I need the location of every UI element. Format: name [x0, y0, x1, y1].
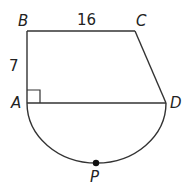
geometry-diagram: B C A D P 16 7 [0, 0, 186, 188]
measure-BC: 16 [77, 11, 96, 29]
measure-AB: 7 [9, 57, 19, 75]
right-angle-marker [27, 90, 40, 103]
label-B: B [18, 12, 28, 30]
label-C: C [136, 12, 147, 30]
segment-CD [135, 31, 166, 103]
label-P: P [90, 168, 100, 186]
label-A: A [10, 94, 21, 112]
semicircle-arc [27, 103, 166, 163]
point-P-dot [93, 160, 99, 166]
label-D: D [170, 94, 182, 112]
